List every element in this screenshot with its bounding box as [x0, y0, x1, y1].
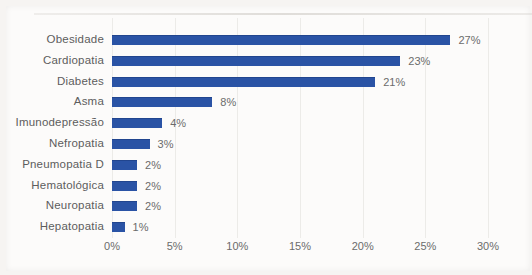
bar-row-3: Diabetes21%	[0, 72, 532, 93]
category-label: Hepatopatia	[0, 220, 104, 232]
bar	[112, 139, 150, 149]
x-tick-label: 5%	[153, 240, 197, 252]
bar	[112, 160, 137, 170]
category-label: Cardiopatia	[0, 54, 104, 66]
value-label: 2%	[145, 200, 161, 212]
bar-row-8: Hematológica2%	[0, 176, 532, 197]
bar	[112, 77, 375, 87]
value-label: 8%	[220, 96, 236, 108]
category-label: Asma	[0, 95, 104, 107]
x-tick-label: 10%	[215, 240, 259, 252]
category-label: Nefropatia	[0, 137, 104, 149]
bar	[112, 56, 400, 66]
bar-row-2: Cardiopatia23%	[0, 51, 532, 72]
value-label: 2%	[145, 180, 161, 192]
category-label: Pneumopatia D	[0, 158, 104, 170]
bar-row-10: Hepatopatia1%	[0, 217, 532, 238]
bar-row-5: Imunodepressão4%	[0, 113, 532, 134]
bar-row-6: Nefropatia3%	[0, 134, 532, 155]
x-tick-label: 30%	[466, 240, 510, 252]
category-label: Hematológica	[0, 179, 104, 191]
x-axis: 0%5%10%15%20%25%30%	[0, 240, 532, 256]
category-label: Imunodepressão	[0, 116, 104, 128]
bar-row-7: Pneumopatia D2%	[0, 155, 532, 176]
value-label: 3%	[158, 138, 174, 150]
bar	[112, 201, 137, 211]
category-label: Obesidade	[0, 33, 104, 45]
x-tick-label: 20%	[341, 240, 385, 252]
bar-chart: Obesidade27%Cardiopatia23%Diabetes21%Asm…	[0, 0, 532, 275]
bar	[112, 118, 162, 128]
bar-row-1: Obesidade27%	[0, 30, 532, 51]
category-label: Diabetes	[0, 75, 104, 87]
value-label: 1%	[133, 221, 149, 233]
chart-top-edge-line	[34, 13, 532, 15]
x-tick-label: 0%	[90, 240, 134, 252]
value-label: 23%	[408, 55, 430, 67]
bar-row-4: Asma8%	[0, 92, 532, 113]
value-label: 21%	[383, 76, 405, 88]
value-label: 27%	[458, 34, 480, 46]
x-tick-label: 25%	[403, 240, 447, 252]
bar	[112, 181, 137, 191]
category-label: Neuropatia	[0, 199, 104, 211]
value-label: 4%	[170, 117, 186, 129]
bar	[112, 97, 212, 107]
value-label: 2%	[145, 159, 161, 171]
bar	[112, 35, 450, 45]
x-tick-label: 15%	[278, 240, 322, 252]
bar	[112, 222, 125, 232]
bar-row-9: Neuropatia2%	[0, 196, 532, 217]
